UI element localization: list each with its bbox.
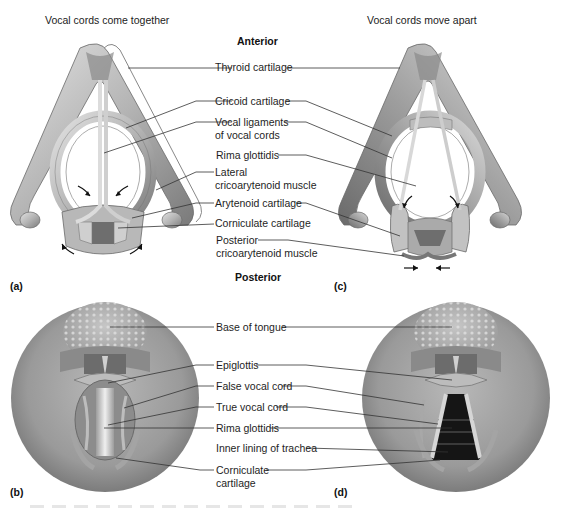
label-false-vocal-cord: False vocal cord [216,380,292,393]
label-posterior-cricoarytenoid-line1: Posterior [216,234,318,247]
label-vocal-ligaments-line1: Vocal ligaments [215,116,289,129]
panel-label-d: (d) [334,486,347,498]
title-vocal-cords-together: Vocal cords come together [45,14,169,26]
label-lateral-cricoarytenoid-line1: Lateral [215,166,317,179]
label-corniculate-cartilage-top: Corniculate cartilage [215,217,311,230]
label-posterior-cricoarytenoid: Posterior cricoarytenoid muscle [216,234,318,259]
panel-label-a: (a) [10,280,23,292]
label-posterior-cricoarytenoid-line2: cricoarytenoid muscle [216,247,318,260]
title-vocal-cords-apart: Vocal cords move apart [367,14,477,26]
label-vocal-ligaments-line2: of vocal cords [215,129,289,142]
panel-label-c: (c) [334,280,347,292]
label-vocal-ligaments: Vocal ligaments of vocal cords [215,116,289,141]
label-corniculate-cartilage-bottom: Corniculate cartilage [216,464,269,489]
label-epiglottis: Epiglottis [216,359,259,372]
panel-label-b: (b) [10,486,23,498]
label-arytenoid-cartilage: Arytenoid cartilage [215,197,302,210]
label-rima-glottidis-top: Rima glottidis [216,149,279,162]
label-inner-lining-trachea: Inner lining of trachea [216,442,317,455]
diagram-a-closed [10,44,201,254]
label-corniculate-line2: cartilage [216,477,269,490]
label-lateral-cricoarytenoid: Lateral cricoarytenoid muscle [215,166,317,191]
orientation-anterior: Anterior [237,35,278,47]
label-corniculate-line1: Corniculate [216,464,269,477]
label-true-vocal-cord: True vocal cord [216,401,288,414]
label-thyroid-cartilage: Thyroid cartilage [215,61,293,74]
diagram-c-open [338,44,521,271]
label-rima-glottidis-bottom: Rima glottidis [216,422,279,435]
diagram-b-laryngoscope-closed [11,302,199,492]
label-cricoid-cartilage: Cricoid cartilage [215,95,290,108]
label-base-of-tongue: Base of tongue [216,321,287,334]
truncated-caption-fragment [30,505,360,508]
orientation-posterior: Posterior [235,271,281,283]
label-lateral-cricoarytenoid-line2: cricoarytenoid muscle [215,179,317,192]
